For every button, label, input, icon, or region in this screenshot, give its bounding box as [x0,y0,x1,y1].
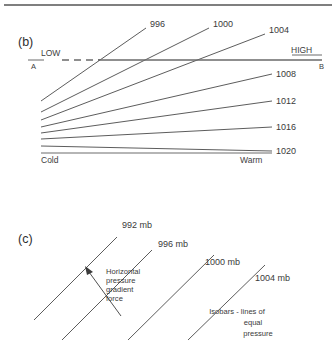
panel-b-isobar-1008 [41,74,272,127]
pressure-gradient-force-label-line-1: Horizontal [106,267,140,276]
panel-c-isobar-label-1004: 1004 mb [255,273,290,283]
panel-b-isobar-label-1020: 1020 [276,146,296,156]
panel-c-isobar-992 [34,237,117,320]
panel-b-isobar-1000 [41,28,209,112]
panel-c-label: (c) [18,232,33,246]
panel-b-point-a-label: A [31,62,36,71]
panel-b-isobar-label-1004: 1004 [269,25,289,35]
figure-canvas: (b) LOW HIGH A B 996 1000 1004 1008 1012… [0,0,336,359]
panel-b-isobar-label-996: 996 [150,19,165,29]
panel-b-low-label: LOW [41,48,60,58]
panel-b-cold-label: Cold [41,155,59,165]
panel-b-isobar-label-1016: 1016 [276,122,296,132]
panel-b-isobar-label-1000: 1000 [213,19,233,29]
pressure-diagram-figure: (b) LOW HIGH A B 996 1000 1004 1008 1012… [0,0,336,359]
pressure-gradient-force-arrow-head [85,266,93,275]
panel-c-isobar-label-996: 996 mb [158,239,188,249]
panel-c-isobar-label-1000: 1000 mb [205,257,240,267]
isobar-note-line-2: equal [244,318,263,327]
panel-b-isobar-996 [41,28,146,101]
panel-c: (c) 992 mb 996 mb 1000 mb 1004 mb Horizo… [18,220,290,340]
pressure-gradient-force-label-line-4: force [106,294,123,303]
panel-b-label: (b) [18,35,33,49]
panel-b-isobar-1004 [41,34,265,120]
isobar-note-line-3: pressure [243,329,273,338]
panel-b-isobar-1016 [41,127,272,139]
panel-b: (b) LOW HIGH A B 996 1000 1004 1008 1012… [18,19,324,165]
isobar-note-line-1: Isobars - lines of [209,307,266,316]
panel-b-high-label: HIGH [291,45,312,55]
panel-b-point-b-label: B [319,62,324,71]
panel-b-isobar-1020 [41,146,272,151]
panel-b-isobar-label-1012: 1012 [276,96,296,106]
pressure-gradient-force-label-line-2: pressure [106,276,136,285]
panel-c-isobar-label-992: 992 mb [122,220,152,230]
panel-b-isobar-1012 [41,101,272,133]
panel-b-isobar-label-1008: 1008 [276,69,296,79]
panel-b-warm-label: Warm [240,155,262,165]
pressure-gradient-force-label-line-3: gradient [106,285,134,294]
